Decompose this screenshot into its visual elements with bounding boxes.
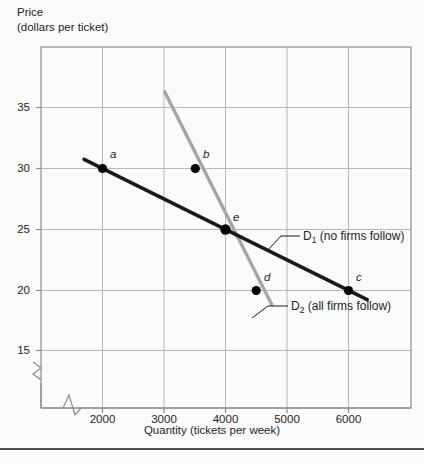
point-label-a: a <box>110 148 116 160</box>
y-tick-label-30: 30 <box>0 162 30 174</box>
point-label-b: b <box>203 148 209 160</box>
y-axis-break-icon <box>33 362 41 380</box>
data-point-a <box>98 164 107 173</box>
data-point-d <box>252 286 261 295</box>
curve-label-d1-letter: D <box>303 229 312 243</box>
y-tick-label-15: 15 <box>0 344 30 356</box>
data-point-c <box>344 286 353 295</box>
curve-label-d1: D1 (no firms follow) <box>303 229 404 245</box>
y-tick-marks <box>36 108 41 351</box>
curve-label-d2-letter: D <box>291 299 300 313</box>
point-label-c: c <box>356 271 362 283</box>
x-axis-title: Quantity (tickets per week) <box>0 424 424 436</box>
y-tick-label-35: 35 <box>0 101 30 113</box>
figure-canvas: Price(dollars per ticket) <box>0 0 424 464</box>
data-point-e <box>220 224 230 234</box>
y-tick-label-20: 20 <box>0 284 30 296</box>
data-point-b <box>191 164 200 173</box>
curve-label-d2-text: (all firms follow) <box>304 299 391 313</box>
curve-label-d2: D2 (all firms follow) <box>291 299 391 315</box>
figure-bottom-rule <box>0 448 424 450</box>
y-tick-label-25: 25 <box>0 223 30 235</box>
curve-label-d1-text: (no firms follow) <box>316 229 404 243</box>
point-label-e: e <box>233 211 239 223</box>
point-label-d: d <box>264 271 270 283</box>
